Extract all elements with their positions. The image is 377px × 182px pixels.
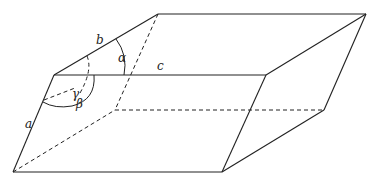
label-b: b xyxy=(96,33,104,47)
edge-b xyxy=(54,14,158,75)
edge-front-right xyxy=(222,75,266,172)
edge-right-back xyxy=(324,14,366,110)
label-alpha: α xyxy=(118,51,126,65)
label-c: c xyxy=(157,59,164,73)
diagram-svg: b c a α γ β xyxy=(0,0,377,182)
parallelepiped-diagram: b c a α γ β xyxy=(0,0,377,182)
label-beta: β xyxy=(75,97,83,111)
label-a: a xyxy=(25,117,32,131)
gamma-dash-ref xyxy=(44,88,75,100)
edge-top-right xyxy=(266,14,366,75)
edge-a xyxy=(13,75,54,172)
edge-bottom-right xyxy=(222,110,324,172)
